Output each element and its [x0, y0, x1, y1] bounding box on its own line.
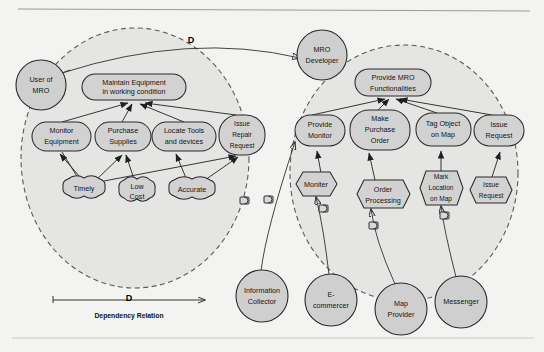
svg-text:Purchase: Purchase — [365, 125, 395, 134]
dependency-marker-map-provider — [369, 222, 378, 229]
svg-text:commercer: commercer — [313, 301, 350, 310]
goal-purchase-supplies[interactable]: Purchase Supplies — [95, 122, 151, 151]
svg-text:in working condition: in working condition — [102, 87, 165, 96]
goal-provide-monitor[interactable]: Provide Monitor — [295, 115, 345, 146]
svg-text:Low: Low — [130, 182, 144, 191]
goal-maintain-equipment[interactable]: Maintain Equipment in working condition — [82, 74, 186, 100]
svg-text:Make: Make — [371, 114, 389, 123]
legend: D Dependency Relation — [53, 293, 205, 320]
svg-text:Request: Request — [486, 131, 513, 140]
svg-text:Functionalities: Functionalities — [370, 84, 416, 93]
goal-model-svg: D — [0, 0, 544, 352]
goal-issue-request[interactable]: Issue Request — [474, 115, 524, 146]
svg-text:Provide MRO: Provide MRO — [371, 73, 415, 82]
svg-text:Location: Location — [429, 184, 454, 191]
svg-text:User of: User of — [29, 75, 52, 84]
softgoal-low-cost[interactable]: Low Cost — [119, 177, 155, 202]
actor-map-provider[interactable]: Map Provider — [375, 283, 427, 335]
diagram-canvas: D — [0, 0, 544, 352]
dependency-marker-e-commercer — [319, 205, 328, 212]
svg-text:Issue: Issue — [483, 181, 499, 188]
svg-text:Supplies: Supplies — [109, 137, 137, 146]
svg-text:Equipment: Equipment — [44, 137, 78, 146]
svg-text:Developer: Developer — [306, 56, 339, 65]
actor-user-of-mro[interactable]: User of MRO — [16, 60, 66, 110]
svg-text:Issue: Issue — [234, 120, 250, 127]
svg-text:Tag Object: Tag Object — [426, 119, 460, 128]
svg-text:Cost: Cost — [130, 192, 145, 201]
top-rule — [18, 9, 530, 11]
task-issue-request[interactable]: Issue Request — [470, 177, 512, 203]
svg-text:Collector: Collector — [248, 297, 277, 306]
softgoal-accurate[interactable]: Accurate — [169, 177, 215, 200]
dependency-info-collector[interactable] — [261, 142, 295, 271]
svg-text:Provide: Provide — [308, 120, 332, 129]
actor-messenger[interactable]: Messenger — [435, 276, 487, 328]
task-moniter[interactable]: Moniter — [296, 172, 337, 196]
svg-text:Map: Map — [394, 299, 408, 308]
svg-text:on Map: on Map — [431, 130, 455, 139]
svg-text:Request: Request — [230, 142, 255, 150]
dependency-marker-left-edge — [240, 197, 249, 204]
svg-text:on Map: on Map — [430, 195, 452, 203]
goal-tag-object-on-map[interactable]: Tag Object on Map — [416, 113, 471, 146]
svg-text:Messenger: Messenger — [443, 297, 479, 306]
goal-issue-repair-request[interactable]: Issue Repair Request — [219, 115, 265, 155]
actor-mro-developer[interactable]: MRO Developer — [297, 30, 347, 80]
svg-text:Repair: Repair — [232, 131, 252, 139]
dependency-marker-messenger — [440, 212, 449, 219]
svg-text:Timely: Timely — [74, 184, 95, 193]
actor-information-collector[interactable]: Information Collector — [236, 270, 288, 322]
task-order-processing[interactable]: Order Processing — [357, 180, 410, 208]
actor-e-commercer[interactable]: E- commercer — [305, 274, 357, 326]
svg-text:Order: Order — [374, 185, 393, 194]
svg-text:Provider: Provider — [388, 310, 415, 319]
svg-text:MRO: MRO — [314, 45, 331, 54]
svg-text:Locate Tools: Locate Tools — [164, 126, 205, 135]
task-mark-location-on-map[interactable]: Mark Location on Map — [420, 171, 463, 205]
svg-text:Order: Order — [371, 136, 390, 145]
svg-text:Accurate: Accurate — [178, 185, 206, 194]
dependency-marker-d-main: D — [188, 35, 195, 45]
goal-monitor-equipment[interactable]: Monitor Equipment — [32, 122, 91, 151]
goal-provide-mro-functionalities[interactable]: Provide MRO Functionalities — [355, 69, 431, 96]
svg-text:Purchase: Purchase — [108, 126, 138, 135]
svg-text:Request: Request — [479, 192, 504, 200]
svg-text:Issue: Issue — [490, 120, 507, 129]
svg-text:Monitor: Monitor — [308, 131, 333, 140]
svg-text:E-: E- — [327, 290, 335, 299]
dependency-marker-info-collector — [264, 196, 273, 203]
svg-text:MRO: MRO — [33, 86, 50, 95]
svg-text:and devices: and devices — [165, 137, 204, 146]
svg-text:Mark: Mark — [434, 173, 449, 180]
svg-text:Moniter: Moniter — [304, 180, 329, 189]
svg-text:Monitor: Monitor — [50, 126, 75, 135]
svg-text:Maintain Equipment: Maintain Equipment — [102, 78, 166, 87]
legend-label: Dependency Relation — [94, 312, 163, 320]
softgoal-timely[interactable]: Timely — [63, 176, 105, 199]
goal-make-purchase-order[interactable]: Make Purchase Order — [350, 110, 410, 150]
svg-text:Processing: Processing — [365, 196, 401, 205]
svg-text:Information: Information — [244, 286, 280, 295]
legend-marker-d: D — [126, 293, 133, 303]
goal-locate-tools-and-devices[interactable]: Locate Tools and devices — [152, 122, 216, 151]
